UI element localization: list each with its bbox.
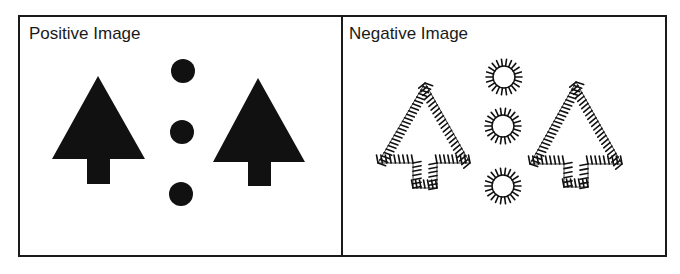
solid-tree-icon xyxy=(213,78,305,186)
solid-dot-icon xyxy=(170,120,194,144)
hatched-circle-icon xyxy=(485,168,521,204)
hatched-tree-icon xyxy=(377,83,471,190)
hatched-circle-icon xyxy=(486,59,522,95)
negative-image-group xyxy=(377,59,623,204)
solid-dot-icon xyxy=(171,59,195,83)
hatched-circle-icon xyxy=(485,108,521,144)
hatched-tree-icon xyxy=(529,82,623,189)
illustration-canvas xyxy=(0,0,680,274)
positive-image-group xyxy=(52,59,305,206)
solid-tree-icon xyxy=(52,76,145,184)
solid-dot-icon xyxy=(169,182,193,206)
